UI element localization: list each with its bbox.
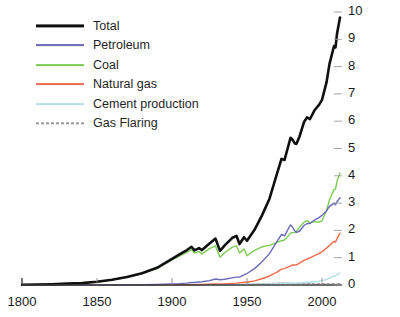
y-tick-label: 2 (348, 221, 370, 236)
y-tick-label: 7 (348, 85, 370, 100)
x-tick-label: 2000 (300, 294, 344, 309)
legend-swatch-icon (36, 98, 84, 110)
y-tick-label: 9 (348, 30, 370, 45)
legend-item-label: Coal (93, 59, 119, 72)
chart-legend: TotalPetroleumCoalNatural gasCement prod… (36, 16, 246, 133)
legend-swatch-icon (36, 78, 84, 90)
legend-item-petroleum: Petroleum (36, 36, 246, 56)
legend-item-gas-flaring: Gas Flaring (36, 114, 246, 134)
series-line-petroleum (22, 198, 340, 285)
y-tick-label: 8 (348, 58, 370, 73)
y-tick-label: 1 (348, 249, 370, 264)
x-tick-label: 1800 (0, 294, 44, 309)
legend-item-total: Total (36, 16, 246, 36)
legend-swatch-icon (36, 20, 84, 32)
x-tick-label: 1850 (75, 294, 119, 309)
y-tick-label: 6 (348, 112, 370, 127)
legend-item-cement-production: Cement production (36, 94, 246, 114)
series-line-coal (22, 173, 340, 285)
legend-item-label: Cement production (93, 98, 199, 111)
legend-swatch-icon (36, 59, 84, 71)
legend-item-coal: Coal (36, 55, 246, 75)
y-tick-label: 5 (348, 140, 370, 155)
legend-item-natural-gas: Natural gas (36, 75, 246, 95)
x-tick-label: 1900 (150, 294, 194, 309)
x-tick-label: 1950 (225, 294, 269, 309)
y-tick-label: 4 (348, 167, 370, 182)
legend-item-label: Petroleum (93, 39, 150, 52)
legend-item-label: Gas Flaring (93, 117, 158, 130)
legend-swatch-icon (36, 117, 84, 129)
legend-item-label: Total (93, 20, 119, 33)
y-tick-label: 3 (348, 194, 370, 209)
legend-swatch-icon (36, 39, 84, 51)
series-line-natural-gas (22, 233, 340, 285)
y-tick-label: 10 (348, 3, 370, 18)
legend-item-label: Natural gas (93, 78, 157, 91)
y-tick-label: 0 (348, 276, 370, 291)
carbon-emissions-chart: 012345678910 18001850190019502000 Metric… (0, 0, 400, 317)
